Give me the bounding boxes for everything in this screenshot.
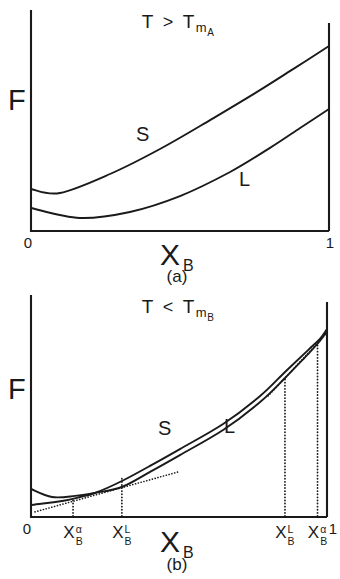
- y-axis-label-F: F: [8, 86, 26, 115]
- panel-a: T>TmA F XB (a) SL01: [0, 0, 340, 289]
- x-tick-xb-alpha-left: XαB: [63, 524, 82, 547]
- curve-L: [31, 109, 329, 218]
- curve-S: [31, 329, 327, 505]
- x-tick-1: 1: [326, 235, 334, 250]
- x-tick-xb-L-left: XLB: [112, 524, 131, 547]
- title-lhs: T: [142, 11, 154, 32]
- curve-label-S: S: [136, 124, 149, 144]
- title-lhs: T: [142, 296, 154, 317]
- curve-label-L: L: [224, 416, 235, 436]
- x-tick-0: 0: [24, 235, 32, 250]
- axes: [31, 10, 329, 231]
- title-operator: >: [163, 12, 174, 32]
- title-rhs: TmA: [183, 11, 215, 32]
- panel-b: T<TmB F XB (b) SL0XαBXLBXLBXαB1: [0, 289, 340, 579]
- x-tick-0: 0: [23, 521, 31, 536]
- curve-L: [31, 331, 327, 497]
- axes: [31, 295, 327, 517]
- x-tick-xb-alpha-right: XαB: [308, 524, 327, 547]
- curve-label-L: L: [239, 169, 250, 189]
- title-rhs: TmB: [183, 296, 215, 317]
- title-operator: <: [163, 297, 174, 317]
- curve-S: [31, 46, 329, 194]
- x-tick-1: 1: [329, 521, 337, 536]
- panel-a-caption: (a): [167, 268, 188, 285]
- x-axis-label-XB: XB: [160, 240, 194, 270]
- panel-b-caption: (b): [167, 556, 188, 573]
- panel-a-title: T>TmA: [142, 12, 215, 31]
- x-axis-label-XB: XB: [160, 527, 194, 557]
- curve-label-S: S: [158, 418, 171, 438]
- x-tick-xb-L-right: XLB: [275, 524, 294, 547]
- panel-b-title: T<TmB: [142, 297, 215, 316]
- y-axis-label-F: F: [8, 375, 26, 404]
